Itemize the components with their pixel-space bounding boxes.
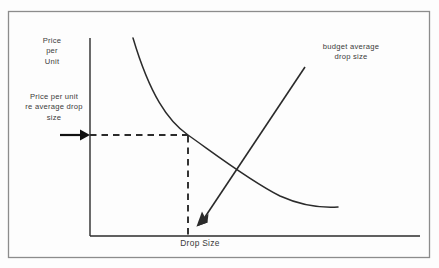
price-pointer-arrow-icon [60,130,90,141]
price-per-unit-annotation: Price per unit re average drop size [12,92,96,123]
x-axis-label: Drop Size [140,238,260,248]
price-per-unit-curve [133,38,338,207]
figure-container: Price per Unit Price per unit re average… [0,0,439,268]
y-axis-label: Price per Unit [29,36,75,67]
budget-average-drop-size-arrow-icon [197,67,306,227]
budget-average-drop-size-annotation: budget average drop size [303,42,399,63]
